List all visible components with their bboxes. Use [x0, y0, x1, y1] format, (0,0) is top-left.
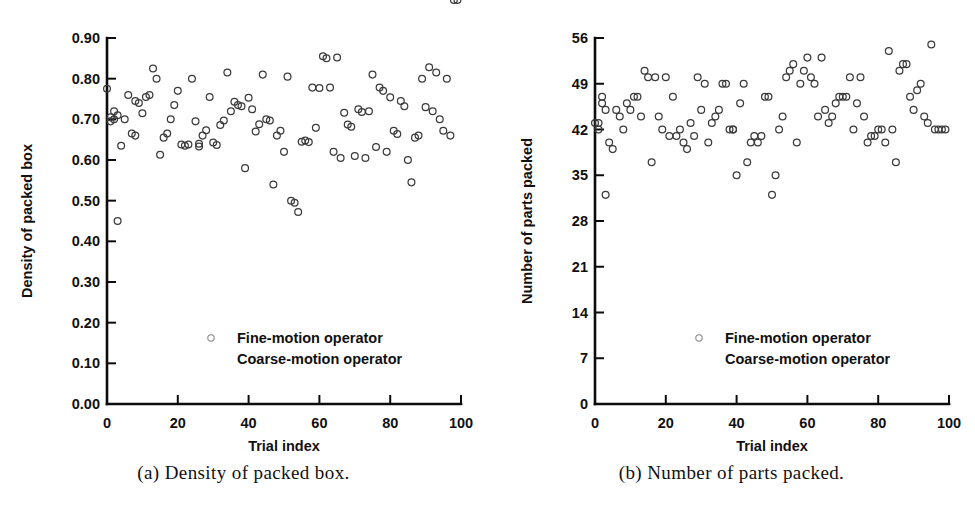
- scatter-plot-a: 0.000.100.200.300.400.500.600.700.800.90…: [0, 0, 487, 470]
- y-tick-label: 0.10: [72, 355, 100, 371]
- data-point: [832, 100, 839, 107]
- data-point: [921, 113, 928, 120]
- legend-marker-icon: [208, 335, 214, 341]
- data-point: [281, 148, 288, 155]
- data-point: [341, 109, 348, 116]
- data-point: [776, 126, 783, 133]
- data-point: [443, 75, 450, 82]
- data-point-group: [592, 41, 949, 198]
- y-tick-label: 7: [580, 350, 588, 366]
- x-tick-label: 80: [870, 415, 886, 431]
- data-point: [804, 54, 811, 61]
- data-point: [157, 151, 164, 158]
- data-point: [616, 113, 623, 120]
- data-point: [362, 155, 369, 162]
- data-point: [822, 106, 829, 113]
- data-point: [606, 139, 613, 146]
- data-point: [694, 74, 701, 81]
- y-tick-label: 0.90: [72, 30, 100, 46]
- data-point: [369, 71, 376, 78]
- data-point: [645, 74, 652, 81]
- data-point: [426, 64, 433, 71]
- data-point: [171, 102, 178, 109]
- data-point: [150, 65, 157, 72]
- data-point: [701, 80, 708, 87]
- data-point: [662, 74, 669, 81]
- x-tick-label: 100: [937, 415, 961, 431]
- data-point: [889, 126, 896, 133]
- data-point: [716, 106, 723, 113]
- y-tick-label: 0: [580, 396, 588, 412]
- x-tick-label: 60: [799, 415, 815, 431]
- data-point: [917, 80, 924, 87]
- data-point: [274, 132, 281, 139]
- data-point: [228, 108, 235, 115]
- y-tick-label: 0.70: [72, 111, 100, 127]
- data-point: [910, 106, 917, 113]
- data-point: [613, 106, 620, 113]
- data-point: [885, 48, 892, 55]
- x-tick-label: 40: [241, 415, 257, 431]
- data-point: [408, 179, 415, 186]
- legend-label: Coarse-motion operator: [725, 351, 891, 367]
- data-point: [383, 148, 390, 155]
- data-point: [758, 133, 765, 140]
- data-point: [337, 155, 344, 162]
- y-tick-label: 0.60: [72, 152, 100, 168]
- data-point: [217, 122, 224, 129]
- data-point: [744, 159, 751, 166]
- data-point: [295, 209, 302, 216]
- data-point: [599, 93, 606, 100]
- data-point: [373, 144, 380, 151]
- data-point: [220, 117, 227, 124]
- data-point: [850, 126, 857, 133]
- y-tick-label: 0.50: [72, 193, 100, 209]
- data-point: [114, 218, 121, 225]
- data-point: [786, 67, 793, 74]
- data-point: [623, 100, 630, 107]
- data-point: [861, 113, 868, 120]
- data-point: [815, 113, 822, 120]
- data-point: [712, 113, 719, 120]
- data-point: [330, 148, 337, 155]
- data-point: [599, 100, 606, 107]
- panel-a-density: 0.000.100.200.300.400.500.600.700.800.90…: [0, 0, 487, 523]
- data-point: [818, 54, 825, 61]
- data-point: [206, 94, 213, 101]
- data-point: [638, 113, 645, 120]
- x-tick-label: 60: [311, 415, 327, 431]
- data-point: [928, 41, 935, 48]
- data-point: [666, 133, 673, 140]
- caption-a: (a) Density of packed box.: [0, 462, 487, 484]
- data-point: [309, 84, 316, 91]
- data-point: [641, 67, 648, 74]
- x-tick-label: 20: [170, 415, 186, 431]
- data-point: [846, 74, 853, 81]
- data-point: [829, 113, 836, 120]
- y-tick-label: 0.80: [72, 71, 100, 87]
- data-point: [334, 54, 341, 61]
- data-point: [705, 139, 712, 146]
- data-point: [174, 87, 181, 94]
- y-tick-label: 21: [572, 259, 588, 275]
- data-point: [754, 139, 761, 146]
- data-point: [655, 113, 662, 120]
- plot-area-a: 0.000.100.200.300.400.500.600.700.800.90…: [0, 0, 487, 470]
- data-point: [779, 113, 786, 120]
- data-point-group: [104, 0, 461, 224]
- data-point: [121, 116, 128, 123]
- data-point: [259, 71, 266, 78]
- data-point: [808, 74, 815, 81]
- data-point: [602, 191, 609, 198]
- data-point: [602, 106, 609, 113]
- scatter-plot-b: 0714212835424956020406080100Trial indexN…: [488, 0, 975, 470]
- data-point: [708, 120, 715, 127]
- data-point: [429, 108, 436, 115]
- data-point: [684, 146, 691, 153]
- x-axis-title: Trial index: [248, 438, 320, 454]
- data-point: [153, 75, 160, 82]
- data-point: [242, 165, 249, 172]
- data-point: [800, 67, 807, 74]
- y-axis-title: Number of parts packed: [519, 138, 535, 304]
- x-axis-title: Trial index: [736, 438, 808, 454]
